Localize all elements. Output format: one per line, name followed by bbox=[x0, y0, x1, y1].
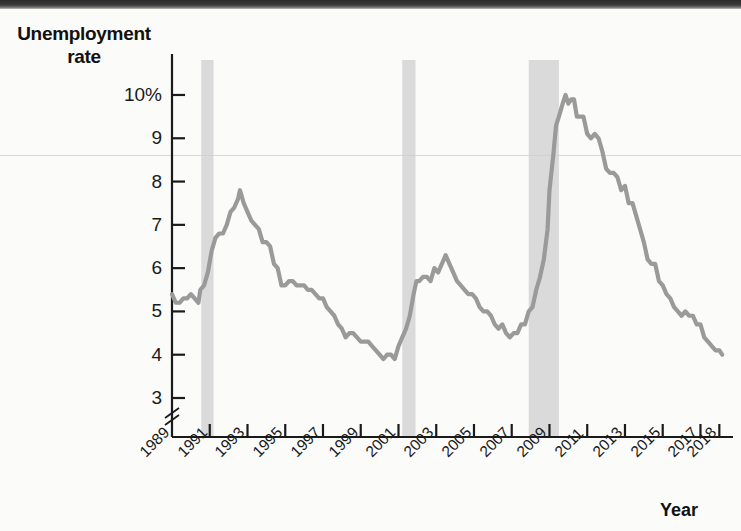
y-tick-label: 6 bbox=[0, 268, 162, 290]
series-line-unemployment-rate bbox=[172, 95, 722, 359]
y-tick-label: 3 bbox=[0, 398, 162, 420]
y-axis-title-line2: rate bbox=[2, 45, 166, 68]
y-tick-label: 9 bbox=[0, 138, 162, 160]
y-tick-label: 7 bbox=[0, 225, 162, 247]
y-tick-label: 5 bbox=[0, 311, 162, 333]
y-tick-label: 8 bbox=[0, 182, 162, 204]
x-axis-title: Year bbox=[660, 500, 698, 521]
y-axis-title-line1: Unemployment bbox=[2, 22, 166, 45]
recession-bands bbox=[201, 60, 559, 437]
recession-2001 bbox=[402, 60, 415, 437]
data-series-group bbox=[172, 95, 722, 359]
axis-lines bbox=[172, 54, 733, 437]
y-axis-ticks bbox=[172, 95, 185, 398]
y-tick-label: 10% bbox=[0, 95, 162, 117]
y-tick-label: 4 bbox=[0, 355, 162, 377]
y-axis-title: Unemployment rate bbox=[2, 22, 166, 68]
unemployment-rate-line-chart: Unemployment rate Year 10%9876543 198919… bbox=[0, 0, 741, 531]
